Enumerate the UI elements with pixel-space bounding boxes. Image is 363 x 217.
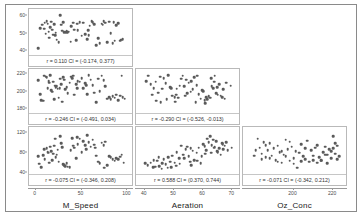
data-point bbox=[37, 79, 40, 82]
data-point bbox=[76, 87, 79, 90]
data-point bbox=[272, 147, 275, 150]
data-point bbox=[62, 21, 65, 24]
data-point bbox=[152, 87, 155, 90]
data-point bbox=[183, 85, 186, 88]
panel-plot-area bbox=[136, 69, 239, 114]
y-tick-oz_conc-220: 220 bbox=[17, 70, 25, 76]
y-tickmark bbox=[25, 73, 27, 74]
data-point bbox=[182, 153, 185, 156]
data-point bbox=[76, 136, 79, 139]
data-point bbox=[113, 40, 116, 43]
data-point bbox=[104, 141, 107, 144]
data-point bbox=[54, 34, 57, 37]
data-point bbox=[55, 153, 58, 156]
data-point bbox=[213, 146, 216, 149]
data-point bbox=[230, 146, 233, 149]
data-point bbox=[298, 152, 301, 155]
data-point bbox=[288, 141, 291, 144]
data-point bbox=[60, 24, 63, 27]
column-axis-title-aeration: Aeration bbox=[172, 201, 203, 210]
data-point bbox=[253, 154, 256, 157]
data-point bbox=[57, 97, 60, 100]
data-point bbox=[82, 22, 85, 25]
data-point bbox=[63, 78, 66, 81]
data-point bbox=[210, 152, 213, 155]
data-point bbox=[156, 160, 159, 163]
data-point bbox=[186, 145, 189, 148]
data-point bbox=[86, 93, 89, 96]
data-point bbox=[326, 162, 329, 165]
data-point bbox=[49, 74, 52, 77]
panel-plot-area bbox=[29, 127, 132, 175]
data-point bbox=[46, 22, 49, 25]
data-point bbox=[102, 79, 105, 82]
x-tick-aeration-70: 70 bbox=[228, 190, 234, 196]
data-point bbox=[216, 150, 219, 153]
data-point bbox=[157, 91, 160, 94]
data-point bbox=[292, 157, 295, 160]
data-point bbox=[45, 147, 48, 150]
y-tick-oz_conc-180: 180 bbox=[17, 105, 25, 111]
data-point bbox=[104, 21, 107, 24]
data-point bbox=[95, 44, 98, 47]
data-point bbox=[77, 143, 80, 146]
data-point bbox=[184, 94, 187, 97]
data-point bbox=[70, 25, 73, 28]
data-point bbox=[192, 88, 195, 91]
data-point bbox=[68, 166, 71, 169]
data-point bbox=[39, 93, 42, 96]
data-point bbox=[308, 160, 311, 163]
scatter-matrix-grid: AerationOz_ConcOz_Press60504022020018012… bbox=[28, 8, 348, 186]
data-point bbox=[284, 155, 287, 158]
data-point bbox=[320, 160, 323, 163]
data-point bbox=[218, 83, 221, 86]
y-tick-oz_press-120: 120 bbox=[17, 129, 25, 135]
data-point bbox=[266, 149, 269, 152]
data-point bbox=[197, 93, 200, 96]
data-point bbox=[101, 24, 104, 27]
data-point bbox=[190, 80, 193, 83]
data-point bbox=[71, 137, 74, 140]
data-point bbox=[88, 74, 91, 77]
data-point bbox=[44, 32, 47, 35]
data-point bbox=[171, 154, 174, 157]
data-point bbox=[330, 157, 333, 160]
data-point bbox=[265, 156, 268, 159]
data-point bbox=[99, 42, 102, 45]
data-point bbox=[162, 77, 165, 80]
data-point bbox=[97, 37, 100, 40]
data-point bbox=[294, 150, 297, 153]
data-point bbox=[276, 145, 279, 148]
data-point bbox=[46, 87, 49, 90]
scatter-panel-oz_conc-vs-m_speed: r = -0.246 CI = (-0.491, 0.034) bbox=[28, 68, 133, 125]
panel-plot-area bbox=[136, 127, 239, 175]
data-point bbox=[55, 32, 58, 35]
panel-plot-area bbox=[243, 127, 346, 175]
column-axis-title-oz_conc: Oz_Conc bbox=[277, 201, 312, 210]
data-point bbox=[286, 148, 289, 151]
data-point bbox=[78, 81, 81, 84]
data-point bbox=[61, 146, 64, 149]
data-point bbox=[80, 35, 83, 38]
data-point bbox=[77, 29, 80, 32]
data-point bbox=[265, 144, 268, 147]
y-tickmark bbox=[25, 108, 27, 109]
data-point bbox=[106, 164, 109, 167]
data-point bbox=[39, 27, 42, 30]
data-point bbox=[53, 145, 56, 148]
data-point bbox=[61, 100, 64, 103]
data-point bbox=[89, 145, 92, 148]
data-point bbox=[146, 164, 149, 167]
data-point bbox=[49, 145, 52, 148]
data-point bbox=[216, 86, 219, 89]
data-point bbox=[206, 138, 209, 141]
x-tick-m_speed-50: 50 bbox=[78, 190, 84, 196]
data-point bbox=[121, 74, 124, 77]
data-point bbox=[60, 142, 63, 145]
data-point bbox=[187, 155, 190, 158]
data-point bbox=[95, 154, 98, 157]
data-point bbox=[310, 149, 313, 152]
data-point bbox=[64, 88, 67, 91]
data-point bbox=[111, 42, 114, 45]
data-point bbox=[91, 84, 94, 87]
